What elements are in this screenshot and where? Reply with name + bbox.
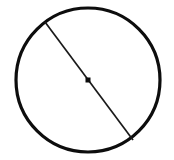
center-dot — [86, 78, 91, 83]
circle-diameter-diagram — [0, 0, 174, 160]
geometry-figure-canvas — [0, 0, 174, 160]
